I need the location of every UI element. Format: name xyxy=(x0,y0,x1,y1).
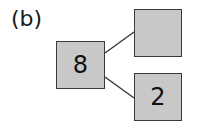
connector-bottom xyxy=(105,77,134,98)
part-box-top[interactable] xyxy=(134,9,182,57)
whole-box: 8 xyxy=(56,41,105,89)
part-bottom-value: 2 xyxy=(150,83,165,111)
connector-top xyxy=(105,32,134,53)
whole-value: 8 xyxy=(73,51,88,79)
part-box-bottom: 2 xyxy=(134,73,182,121)
